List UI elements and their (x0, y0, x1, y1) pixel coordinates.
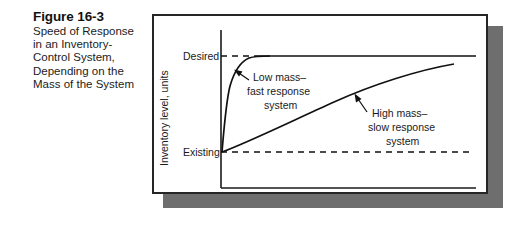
caption-line-5: Mass of the System (33, 78, 151, 91)
figure-number: Figure 16-3 (33, 9, 151, 24)
high-mass-label-line-3: system (386, 135, 420, 147)
high-mass-label-line-1: High mass– (372, 107, 428, 119)
figure-caption: Figure 16-3 Speed of Response in an Inve… (33, 9, 151, 91)
x-tick-label-zero: 0 (218, 191, 224, 192)
response-curve-chart: Inventory level, units Desired Existing … (154, 16, 486, 192)
low-mass-label-line-1: Low mass– (253, 71, 306, 83)
low-mass-label-line-3: system (264, 99, 298, 111)
y-tick-label-existing: Existing (183, 146, 220, 158)
y-tick-label-desired: Desired (183, 50, 219, 62)
caption-line-4: Depending on the (33, 65, 151, 78)
high-mass-arrowhead (355, 94, 362, 103)
caption-line-2: in an Inventory- (33, 38, 151, 51)
caption-line-1: Speed of Response (33, 25, 151, 38)
figure-frame: Inventory level, units Desired Existing … (152, 14, 488, 194)
high-mass-label-line-2: slow response (368, 121, 435, 133)
x-axis-title: Time (337, 191, 360, 192)
caption-line-3: Control System, (33, 51, 151, 64)
low-mass-label-line-2: fast response (247, 85, 310, 97)
y-axis-title: Inventory level, units (158, 70, 170, 166)
